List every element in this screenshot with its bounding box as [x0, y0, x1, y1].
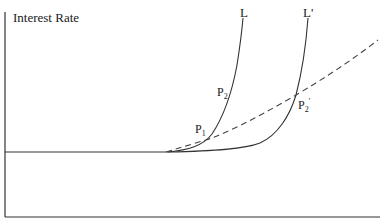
curve-l-prime: [168, 18, 308, 152]
point-p2-label: P2: [217, 85, 228, 101]
point-p2-prime-label: P2': [298, 97, 311, 114]
curve-l-label: L: [240, 5, 248, 20]
curve-l-prime-label: L': [303, 5, 313, 20]
y-axis-label: Interest Rate: [13, 10, 79, 25]
liquidity-preference-chart: Interest Rate L L' P2 P1 P2': [0, 0, 380, 224]
point-p1-label: P1: [195, 122, 206, 138]
